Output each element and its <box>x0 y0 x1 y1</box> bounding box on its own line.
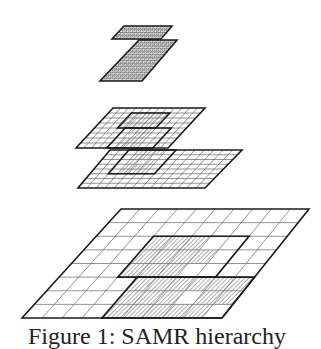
level-2-lower-grid <box>100 40 177 81</box>
level-0-base-grid <box>22 209 309 318</box>
level-1-lower-grid <box>78 150 242 188</box>
figure-caption: Figure 1: SAMR hierarchy <box>28 324 286 348</box>
level-1-upper-grid <box>76 108 205 148</box>
level-2-upper-grid <box>112 26 172 39</box>
